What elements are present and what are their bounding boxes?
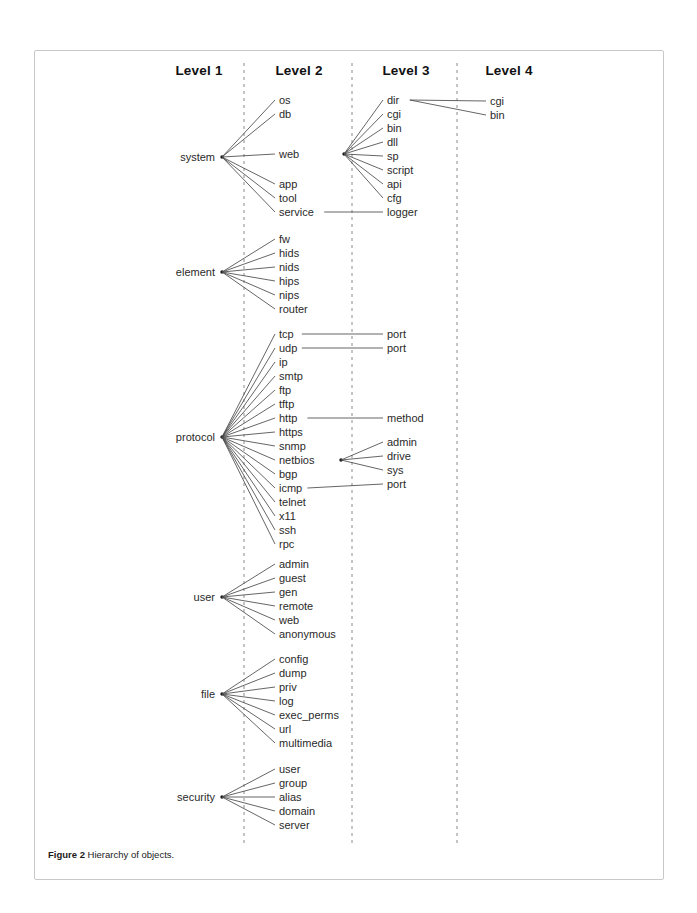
edge-protocol-ssh (222, 437, 275, 530)
node-label-port: port (387, 478, 406, 490)
node-label-sys: sys (387, 464, 404, 476)
node-label-cgi: cgi (387, 108, 401, 120)
node-label-bin: bin (387, 122, 402, 134)
edge-web-script (344, 154, 383, 170)
edge-system-db (222, 114, 275, 157)
root-label-element: element (176, 266, 215, 278)
node-label-exec_perms: exec_perms (279, 709, 339, 721)
edge-element-nips (222, 272, 275, 295)
figure-caption-label: Figure 2 (48, 849, 85, 860)
node-label-service: service (279, 206, 314, 218)
figure-border-box: Level 1Level 2Level 3Level 4systemosdbwe… (34, 50, 664, 880)
node-label-web: web (278, 614, 299, 626)
edge-dir-cgi (410, 100, 486, 101)
node-label-anonymous: anonymous (279, 628, 336, 640)
edge-web-cfg (344, 154, 383, 198)
node-label-server: server (279, 819, 310, 831)
root-label-user: user (194, 591, 216, 603)
figure-page: Level 1Level 2Level 3Level 4systemosdbwe… (0, 0, 697, 913)
root-label-security: security (177, 791, 215, 803)
node-label-smtp: smtp (279, 370, 303, 382)
edge-web-bin (344, 128, 383, 154)
node-label-user: user (279, 763, 301, 775)
node-label-port: port (387, 328, 406, 340)
node-label-l4-cgi: cgi (490, 95, 504, 107)
node-label-url: url (279, 723, 291, 735)
edge-security-domain (222, 797, 275, 811)
edge-netbios-admin (341, 442, 383, 460)
node-label-udp: udp (279, 342, 297, 354)
node-label-drive: drive (387, 450, 411, 462)
column-header-level3: Level 3 (382, 63, 429, 78)
node-label-multimedia: multimedia (279, 737, 333, 749)
edge-file-multimedia (222, 694, 275, 743)
edge-security-user (222, 769, 275, 797)
node-label-fw: fw (279, 233, 290, 245)
node-label-dump: dump (279, 667, 307, 679)
edge-protocol-telnet (222, 437, 275, 502)
node-label-db: db (279, 108, 291, 120)
node-label-x11: x11 (279, 510, 296, 522)
node-label-script: script (387, 164, 413, 176)
node-label-priv: priv (279, 681, 297, 693)
edge-user-web (222, 597, 275, 620)
node-label-cfg: cfg (387, 192, 402, 204)
edge-icmp-port (307, 484, 383, 488)
edge-protocol-rpc (222, 437, 275, 544)
node-label-bgp: bgp (279, 468, 297, 480)
node-label-logger: logger (387, 206, 418, 218)
node-label-dll: dll (387, 136, 398, 148)
edge-protocol-bgp (222, 437, 275, 474)
root-label-file: file (201, 688, 215, 700)
edge-dir-bin (410, 100, 486, 115)
root-label-system: system (180, 151, 215, 163)
node-label-rpc: rpc (279, 538, 295, 550)
edge-element-hips (222, 272, 275, 281)
node-label-netbios: netbios (279, 454, 315, 466)
node-label-hids: hids (279, 247, 300, 259)
node-label-router: router (279, 303, 308, 315)
edge-security-server (222, 797, 275, 825)
node-label-gen: gen (279, 586, 297, 598)
edge-netbios-drive (341, 456, 383, 460)
edge-system-service (222, 157, 275, 212)
node-label-snmp: snmp (279, 440, 306, 452)
edge-system-os (222, 100, 275, 157)
node-label-port: port (387, 342, 406, 354)
node-label-group: group (279, 777, 307, 789)
node-label-domain: domain (279, 805, 315, 817)
node-label-icmp: icmp (279, 482, 302, 494)
column-header-level1: Level 1 (175, 63, 222, 78)
node-label-ip: ip (279, 356, 288, 368)
node-label-web: web (278, 148, 299, 160)
edge-element-router (222, 272, 275, 309)
node-label-admin: admin (387, 436, 417, 448)
node-label-remote: remote (279, 600, 313, 612)
node-label-tcp: tcp (279, 328, 294, 340)
node-label-log: log (279, 695, 294, 707)
edge-protocol-ip (222, 362, 275, 437)
node-label-dir: dir (387, 94, 400, 106)
root-label-protocol: protocol (176, 431, 215, 443)
node-label-nids: nids (279, 261, 300, 273)
figure-caption-text: Hierarchy of objects. (88, 849, 175, 860)
edge-web-sp (344, 154, 383, 156)
column-header-level4: Level 4 (485, 63, 532, 78)
edge-security-group (222, 783, 275, 797)
edge-web-api (344, 154, 383, 184)
edge-user-remote (222, 597, 275, 606)
node-label-http: http (279, 412, 297, 424)
edge-protocol-udp (222, 348, 275, 437)
node-label-sp: sp (387, 150, 399, 162)
node-label-tool: tool (279, 192, 297, 204)
node-label-os: os (279, 94, 291, 106)
node-label-telnet: telnet (279, 496, 306, 508)
node-label-admin: admin (279, 558, 309, 570)
column-header-level2: Level 2 (275, 63, 322, 78)
edge-system-web (222, 154, 275, 157)
edge-netbios-sys (341, 460, 383, 470)
hierarchy-diagram: Level 1Level 2Level 3Level 4systemosdbwe… (35, 51, 665, 881)
node-label-ssh: ssh (279, 524, 296, 536)
edge-user-anonymous (222, 597, 275, 634)
node-label-tftp: tftp (279, 398, 294, 410)
